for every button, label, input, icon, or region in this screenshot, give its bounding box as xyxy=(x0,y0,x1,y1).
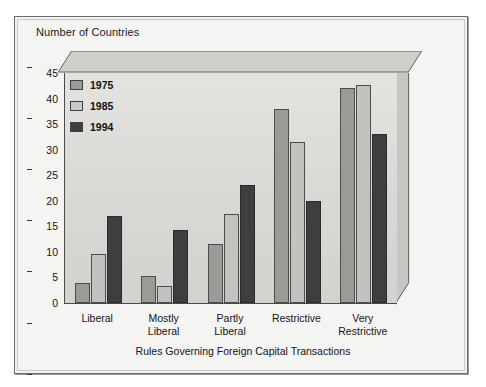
x-axis-title: Rules Governing Foreign Capital Transact… xyxy=(0,345,486,357)
chart-figure: Number of Countries 051015202530354045 1… xyxy=(0,0,486,387)
y-axis-tick-label: 10 xyxy=(32,246,65,258)
y-axis-tick-label: 15 xyxy=(32,220,65,232)
y-axis-tick-mark xyxy=(27,67,32,68)
x-axis-label-liberal: Liberal xyxy=(81,312,113,325)
y-axis-caption: Number of Countries xyxy=(36,26,139,38)
bar-1994-liberal xyxy=(107,216,122,303)
legend-item-1975: 1975 xyxy=(70,77,113,92)
y-axis-tick-label: 40 xyxy=(32,93,65,105)
bar-1994-mostly-liberal xyxy=(173,230,188,303)
y-axis-tick-label: 20 xyxy=(32,195,65,207)
bar-1985-restrictive xyxy=(290,142,305,303)
y-axis-tick-mark xyxy=(27,271,32,272)
legend-label-1994: 1994 xyxy=(90,121,113,133)
legend-swatch-1994 xyxy=(70,122,83,132)
y-axis-tick-label: 35 xyxy=(32,118,65,130)
bar-1975-restrictive xyxy=(274,109,289,303)
bar-1975-very-restrictive xyxy=(340,88,355,303)
y-axis-tick-label: 0 xyxy=(32,297,65,309)
y-axis-tick-mark xyxy=(27,169,32,170)
bar-1994-partly-liberal xyxy=(240,185,255,303)
y-axis-tick-mark xyxy=(27,220,32,221)
bar-1975-liberal xyxy=(75,283,90,303)
bar-1975-partly-liberal xyxy=(208,244,223,303)
legend-label-1985: 1985 xyxy=(90,100,113,112)
y-axis-tick-mark xyxy=(27,118,32,119)
y-axis-tick-label: 45 xyxy=(32,67,65,79)
legend-item-1994: 1994 xyxy=(70,119,113,134)
y-axis-tick-mark xyxy=(27,374,32,375)
legend-label-1975: 1975 xyxy=(90,79,113,91)
legend-swatch-1975 xyxy=(70,80,83,90)
x-axis-label-mostly-liberal: Mostly Liberal xyxy=(148,312,180,337)
plot-area: 051015202530354045 xyxy=(64,73,397,304)
x-axis-label-very-restrictive: Very Restrictive xyxy=(338,312,387,337)
bar-1985-liberal xyxy=(91,254,106,303)
legend-swatch-1985 xyxy=(70,101,83,111)
bar-1985-very-restrictive xyxy=(356,85,371,303)
x-axis-label-partly-liberal: Partly Liberal xyxy=(214,312,246,337)
x-axis-label-restrictive: Restrictive xyxy=(272,312,321,325)
y-axis-tick-label: 25 xyxy=(32,169,65,181)
bar-1975-mostly-liberal xyxy=(141,276,156,303)
legend-item-1985: 1985 xyxy=(70,98,113,113)
bar-1994-very-restrictive xyxy=(372,134,387,303)
bar-1985-mostly-liberal xyxy=(157,286,172,303)
chart-3d-top-face xyxy=(50,51,430,73)
y-axis-tick-label: 30 xyxy=(32,144,65,156)
chart-3d-right-face xyxy=(395,73,431,308)
y-axis-tick-label: 5 xyxy=(32,271,65,283)
legend: 1975 1985 1994 xyxy=(70,77,113,140)
bar-1985-partly-liberal xyxy=(224,214,239,303)
bar-1994-restrictive xyxy=(306,201,321,303)
y-axis-tick-mark xyxy=(27,323,32,324)
